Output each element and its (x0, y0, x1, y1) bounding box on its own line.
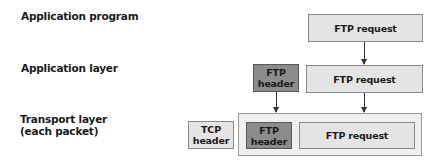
arrow-header-to-transport (276, 92, 277, 112)
label-application-program: Application program (21, 10, 138, 22)
label-transport-layer: Transport layer (each packet) (20, 113, 107, 137)
ftp-header-transport-box: FTP header (246, 122, 292, 149)
tcp-header-box: TCP header (188, 121, 234, 149)
ftp-request-transport-text: FTP request (326, 130, 388, 141)
ftp-header-transport-text: FTP header (251, 125, 287, 147)
ftp-request-app-text: FTP request (333, 74, 395, 85)
ftp-request-transport-box: FTP request (299, 122, 415, 149)
ftp-request-program-box: FTP request (308, 14, 423, 42)
tcp-header-text: TCP header (193, 124, 229, 146)
arrow-request-to-transport (364, 93, 365, 112)
ftp-request-app-box: FTP request (306, 65, 423, 93)
ftp-header-app-box: FTP header (253, 64, 299, 92)
ftp-header-app-text: FTP header (258, 67, 294, 89)
arrow-program-to-app (364, 42, 365, 64)
label-application-layer: Application layer (21, 62, 118, 74)
ftp-request-program-text: FTP request (334, 23, 396, 34)
